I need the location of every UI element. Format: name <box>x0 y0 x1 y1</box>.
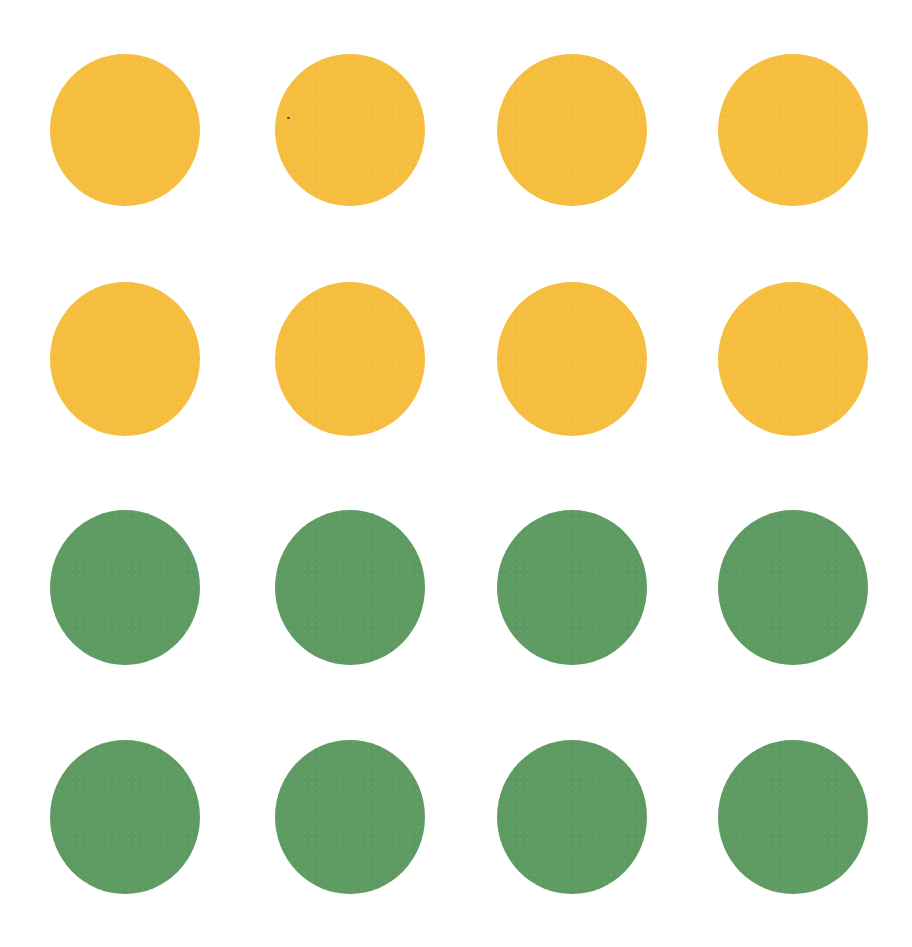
dot-grid-canvas <box>0 0 912 947</box>
dot-r4c3 <box>497 740 647 894</box>
dot-row-4 <box>0 0 912 947</box>
dot-r4c4 <box>718 740 868 894</box>
dot-r4c2 <box>275 740 425 894</box>
dot-r4c1 <box>50 740 200 894</box>
